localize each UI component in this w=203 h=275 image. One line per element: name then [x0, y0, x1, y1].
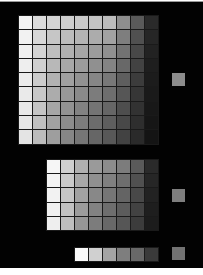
- gray-chip: [75, 188, 88, 201]
- gray-chip: [75, 203, 88, 216]
- gray-chip: [89, 130, 102, 143]
- gray-chip: [103, 73, 116, 86]
- gray-chip: [47, 174, 60, 187]
- gray-chip: [33, 130, 46, 143]
- gray-chip: [131, 59, 144, 72]
- reference-gray-swatch: [172, 247, 185, 260]
- gray-chip: [89, 174, 102, 187]
- gray-chip: [61, 174, 74, 187]
- gray-chip: [61, 102, 74, 115]
- gray-chip: [103, 102, 116, 115]
- gray-chip: [61, 116, 74, 129]
- gray-chip: [75, 217, 88, 230]
- gray-chip: [145, 73, 158, 86]
- gray-chip: [61, 203, 74, 216]
- gray-chip: [117, 130, 130, 143]
- gray-chip: [47, 116, 60, 129]
- gray-chip: [61, 16, 74, 29]
- gray-chip: [103, 174, 116, 187]
- gray-chip: [75, 102, 88, 115]
- gray-chip: [75, 174, 88, 187]
- gray-chip: [103, 116, 116, 129]
- gray-chip: [19, 59, 32, 72]
- gray-chip: [47, 188, 60, 201]
- gray-chip: [47, 102, 60, 115]
- gray-chip: [19, 116, 32, 129]
- gray-chip: [33, 102, 46, 115]
- gray-chip: [103, 30, 116, 43]
- gray-chip: [103, 160, 116, 173]
- gray-chip: [75, 87, 88, 100]
- gray-chip: [117, 73, 130, 86]
- gray-chip: [47, 130, 60, 143]
- gray-chip: [117, 174, 130, 187]
- gray-chip: [33, 73, 46, 86]
- gray-chip: [131, 16, 144, 29]
- gray-chip: [89, 217, 102, 230]
- gray-chip: [131, 203, 144, 216]
- gray-chip: [75, 116, 88, 129]
- gray-chip: [117, 217, 130, 230]
- gray-chip: [145, 30, 158, 43]
- gray-chip: [117, 30, 130, 43]
- gray-chip: [89, 116, 102, 129]
- gray-chip: [117, 59, 130, 72]
- gray-chip: [47, 30, 60, 43]
- gray-chip: [89, 30, 102, 43]
- gray-chip: [117, 45, 130, 58]
- gray-chip: [47, 73, 60, 86]
- gray-chip: [47, 87, 60, 100]
- gray-chip: [33, 116, 46, 129]
- gray-chip: [145, 87, 158, 100]
- gray-chip: [145, 217, 158, 230]
- gray-chip: [75, 130, 88, 143]
- gray-chip: [75, 73, 88, 86]
- gray-chip: [89, 203, 102, 216]
- gray-chip: [75, 160, 88, 173]
- gray-chip: [103, 45, 116, 58]
- gray-chip: [145, 174, 158, 187]
- gray-chip: [75, 30, 88, 43]
- gray-chip: [131, 30, 144, 43]
- gray-chip: [117, 203, 130, 216]
- gray-chip: [61, 188, 74, 201]
- gray-chip: [145, 203, 158, 216]
- gray-chip: [89, 87, 102, 100]
- gray-chip: [47, 16, 60, 29]
- gray-chip: [61, 73, 74, 86]
- gray-chip: [75, 248, 88, 261]
- gray-chip: [131, 130, 144, 143]
- gray-chip: [103, 130, 116, 143]
- bottom-gray-chip-strip: [74, 247, 159, 262]
- gray-chip: [131, 174, 144, 187]
- gray-chip: [33, 16, 46, 29]
- gray-chip: [117, 188, 130, 201]
- gray-chip: [61, 160, 74, 173]
- gray-chip: [19, 87, 32, 100]
- gray-chip: [145, 45, 158, 58]
- gray-chip: [61, 87, 74, 100]
- gray-chip: [103, 217, 116, 230]
- gray-chip: [47, 160, 60, 173]
- gray-chip: [61, 30, 74, 43]
- gray-chip: [145, 102, 158, 115]
- gray-chip: [103, 16, 116, 29]
- chip-chart-canvas: [0, 1, 203, 268]
- gray-chip: [47, 59, 60, 72]
- gray-chip: [47, 217, 60, 230]
- gray-chip: [89, 45, 102, 58]
- gray-chip: [47, 45, 60, 58]
- gray-chip: [89, 248, 102, 261]
- gray-chip: [33, 59, 46, 72]
- gray-chip: [19, 130, 32, 143]
- gray-chip: [75, 59, 88, 72]
- gray-chip: [117, 116, 130, 129]
- gray-chip: [131, 248, 144, 261]
- gray-chip: [19, 45, 32, 58]
- reference-gray-swatch: [172, 189, 185, 202]
- gray-chip: [89, 73, 102, 86]
- gray-chip: [117, 87, 130, 100]
- gray-chip: [131, 102, 144, 115]
- gray-chip: [61, 217, 74, 230]
- gray-chip: [145, 130, 158, 143]
